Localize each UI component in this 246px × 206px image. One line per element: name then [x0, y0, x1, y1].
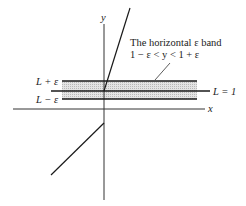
epsilon-band: [62, 81, 197, 99]
annotation-leader-line: [155, 63, 170, 80]
function-upper-branch: [104, 8, 130, 91]
function-lower-branch: [51, 123, 104, 175]
band-annotation-line1: The horizontal ε band: [130, 37, 222, 48]
upper-bound-label: L + ε: [35, 76, 59, 87]
limit-label: L = 1: [212, 86, 236, 97]
y-axis-label: y: [100, 12, 106, 23]
band-annotation-line2: 1 − ε < y < 1 + ε: [130, 49, 200, 60]
x-axis-label: x: [207, 103, 213, 114]
epsilon-band-diagram: y x The horizontal ε band 1 − ε < y < 1 …: [0, 0, 246, 206]
lower-bound-label: L − ε: [35, 94, 59, 105]
